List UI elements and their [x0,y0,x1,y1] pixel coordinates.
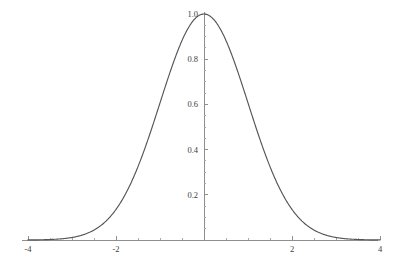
y-axis-tick-label: 0.2 [187,190,198,200]
y-axis-tick-label: 0.4 [187,145,198,155]
x-axis-tick-label: 2 [290,244,294,254]
plot-canvas: -4-224 0.20.40.60.81.0 [0,0,400,265]
gaussian-plot: -4-224 0.20.40.60.81.0 [0,0,400,265]
x-axis-tick-labels: -4-224 [24,244,382,254]
y-axis-tick-label: 0.6 [187,99,198,109]
x-axis-tick-label: -2 [112,244,119,254]
x-axis-tick-label: 4 [378,244,383,254]
y-axis-major-ticks [204,14,208,195]
axes-group [22,12,378,240]
y-axis-tick-labels: 0.20.40.60.81.0 [187,9,198,200]
x-axis-tick-label: -4 [24,244,32,254]
y-axis-tick-label: 0.8 [187,54,198,64]
